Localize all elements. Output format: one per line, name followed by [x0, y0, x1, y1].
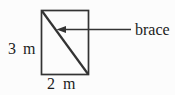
width-label: 2 m: [47, 75, 76, 92]
height-unit: m: [23, 40, 36, 57]
brace-diagram: 3 m 2 m brace: [0, 0, 175, 95]
geometry-figure: 3 m 2 m brace: [0, 0, 175, 95]
width-unit: m: [63, 75, 76, 92]
brace-label: brace: [135, 21, 170, 38]
height-label: 3 m: [8, 40, 36, 57]
height-value: 3: [8, 40, 16, 57]
diagonal-brace-line: [42, 11, 88, 74]
width-value: 2: [47, 75, 55, 92]
